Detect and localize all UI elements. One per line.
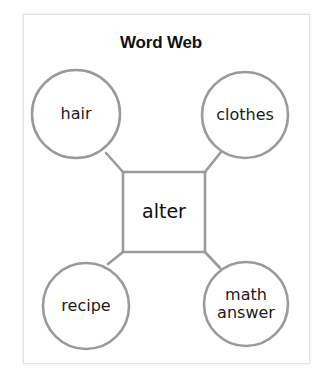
related-word-text-line-2: answer (217, 304, 275, 322)
related-word-text-line-1: math (225, 286, 267, 304)
related-word-bottom-right: math answer (204, 262, 288, 346)
related-word-text: recipe (61, 297, 110, 315)
related-word-top-left: hair (32, 70, 120, 158)
center-word-text: alter (142, 201, 186, 223)
center-word: alter (123, 172, 205, 252)
related-word-bottom-left: recipe (43, 263, 129, 349)
related-word-text: clothes (216, 106, 274, 124)
related-word-text: hair (61, 105, 92, 123)
related-word-top-right: clothes (202, 72, 288, 158)
